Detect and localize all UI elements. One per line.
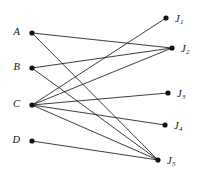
edge-a-j5 — [32, 33, 158, 160]
node-layer — [29, 15, 174, 162]
label-layer: ABCDJ1J2J3J4J5 — [11, 13, 190, 167]
edge-c-j4 — [32, 105, 165, 125]
node-dot-b — [29, 65, 34, 70]
edge-c-j5 — [32, 105, 158, 160]
node-dot-j1 — [163, 15, 168, 20]
bipartite-graph-figure: ABCDJ1J2J3J4J5 — [0, 0, 201, 181]
node-dot-d — [29, 138, 34, 143]
node-label-j5: J5 — [167, 155, 176, 167]
node-label-c: C — [13, 98, 21, 109]
edge-a-j2 — [32, 33, 172, 48]
node-dot-j5 — [155, 157, 160, 162]
node-dot-j4 — [162, 122, 167, 127]
node-label-a: A — [13, 26, 21, 37]
node-label-d: D — [11, 134, 20, 145]
node-label-j3: J3 — [177, 88, 186, 100]
edge-c-j1 — [32, 18, 166, 105]
node-dot-j2 — [169, 45, 174, 50]
node-dot-a — [29, 30, 34, 35]
node-label-j1: J1 — [175, 13, 183, 25]
edge-c-j3 — [32, 93, 168, 105]
node-label-j2: J2 — [181, 43, 190, 55]
node-dot-j3 — [165, 90, 170, 95]
graph-canvas: ABCDJ1J2J3J4J5 — [0, 0, 201, 181]
edge-c-j2 — [32, 48, 172, 105]
node-label-j4: J4 — [174, 120, 183, 132]
node-label-b: B — [14, 61, 21, 72]
edge-d-j5 — [32, 141, 158, 160]
edge-b-j2 — [32, 48, 172, 68]
edge-b-j5 — [32, 68, 158, 160]
edge-layer — [32, 18, 172, 160]
node-dot-c — [29, 102, 34, 107]
